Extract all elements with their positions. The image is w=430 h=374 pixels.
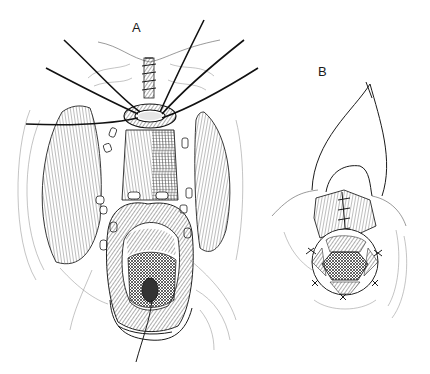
panel-label-a: A: [132, 20, 141, 35]
illustration-artwork: [0, 0, 430, 374]
panel-b-drawing: [272, 82, 407, 318]
panel-label-b: B: [318, 64, 327, 79]
panel-a-drawing: [18, 20, 258, 362]
surgical-illustration: A B: [0, 0, 430, 374]
